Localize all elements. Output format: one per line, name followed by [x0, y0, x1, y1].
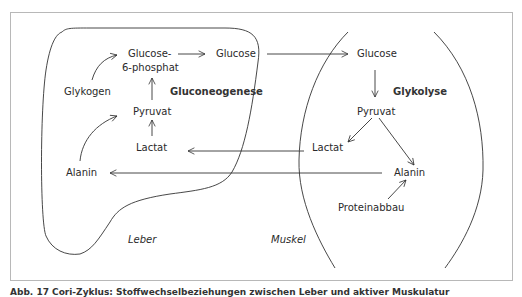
label-leber: Leber	[128, 234, 156, 246]
label-gluconeogenese: Gluconeogenese	[170, 86, 263, 98]
label-muscle-alanin: Alanin	[394, 167, 425, 179]
label-glykogen: Glykogen	[64, 86, 111, 98]
label-muscle-pyruvat: Pyruvat	[357, 106, 395, 118]
figure-caption: Abb. 17 Cori-Zyklus: Stoffwechselbeziehu…	[10, 287, 449, 297]
label-muscle-lactat: Lactat	[312, 142, 343, 154]
label-liver-pyruvat: Pyruvat	[133, 106, 171, 118]
label-glucose-6-phosphat-2: 6-phosphat	[122, 62, 179, 74]
arrow-pyruvat-alanin	[379, 118, 414, 165]
muscle-right-boundary	[434, 32, 483, 268]
label-liver-lactat: Lactat	[136, 142, 167, 154]
label-liver-glucose: Glucose	[216, 48, 256, 60]
label-muscle-glucose: Glucose	[357, 48, 397, 60]
label-liver-alanin: Alanin	[66, 167, 97, 179]
label-glucose-6-phosphat-1: Glucose-	[128, 48, 171, 60]
label-proteinabbau: Proteinabbau	[338, 202, 404, 214]
arrow-proteinabbau-alanin	[388, 180, 406, 199]
label-muskel: Muskel	[271, 234, 306, 246]
arrow-glykogen-g6p	[92, 55, 117, 80]
arrow-pyruvat-lactat	[348, 118, 372, 142]
label-glykolyse: Glykolyse	[393, 86, 447, 98]
arrow-alanin-pyruvat	[80, 116, 117, 161]
